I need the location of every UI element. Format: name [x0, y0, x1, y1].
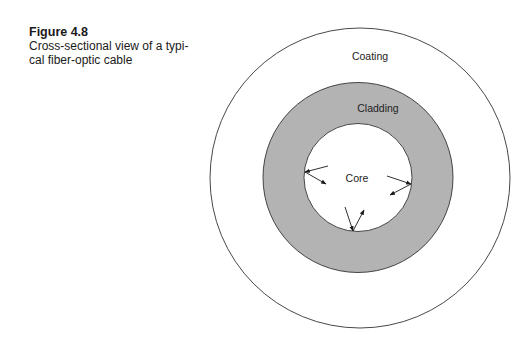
coating-label: Coating — [352, 50, 388, 62]
fiber-cross-section-diagram: Coating Cladding Core — [0, 0, 532, 348]
core-label: Core — [346, 172, 369, 184]
cladding-label: Cladding — [357, 102, 399, 114]
